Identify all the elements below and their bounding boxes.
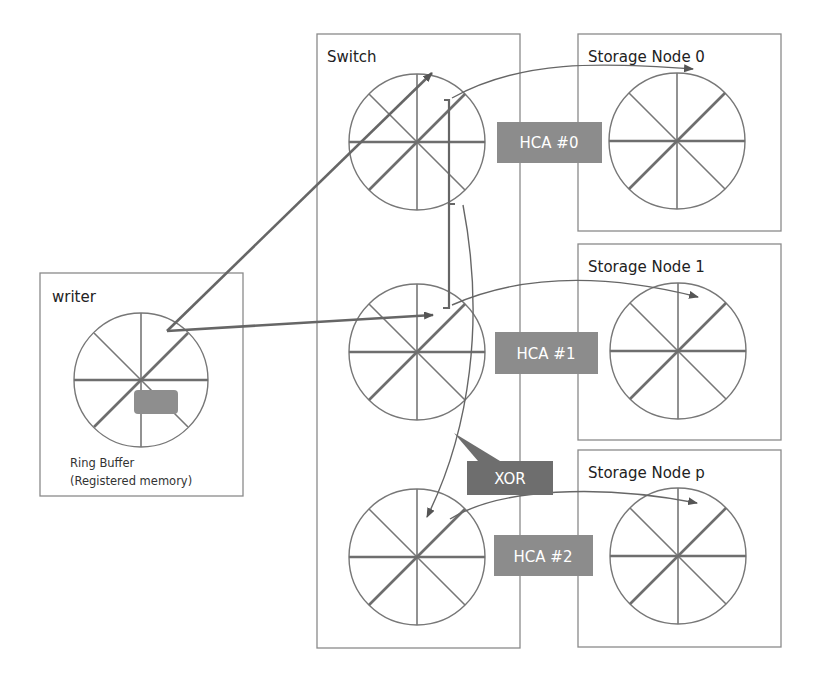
svg-text:XOR: XOR [494, 470, 526, 488]
switch-title: Switch [327, 48, 377, 66]
svg-text:HCA #1: HCA #1 [517, 345, 576, 363]
hca1-transfer-arrow [452, 280, 698, 305]
hca-2-tag: HCA #2 [494, 535, 593, 576]
hca-0-tag: HCA #0 [497, 122, 602, 163]
hca2-transfer-arrow [450, 491, 697, 519]
writer-to-switch-0-arrow [167, 73, 432, 331]
storage-node-0-wheel [609, 73, 745, 209]
writer-ring-buffer-wheel [74, 313, 208, 447]
storage-node-1-title: Storage Node 1 [588, 258, 705, 276]
storage-node-0-title: Storage Node 0 [588, 48, 705, 66]
raid-ring-buffer-diagram: writer Switch Storage Node 0 Storage Nod… [0, 0, 820, 680]
bracket-lower [443, 204, 449, 308]
storage-node-p-title: Storage Node p [588, 464, 705, 482]
switch-wheel-2 [349, 489, 485, 625]
storage-node-p-wheel [610, 488, 746, 624]
svg-text:HCA #0: HCA #0 [520, 134, 579, 152]
registered-memory-caption: (Registered memory) [70, 474, 192, 488]
xor-callout: XOR [454, 433, 553, 495]
writer-title: writer [52, 288, 97, 306]
ring-buffer-caption: Ring Buffer [70, 456, 135, 470]
bracket-upper [444, 100, 455, 204]
svg-text:HCA #2: HCA #2 [514, 548, 573, 566]
buffer-slot-block [134, 390, 178, 414]
storage-node-1-wheel [610, 283, 746, 419]
hca-1-tag: HCA #1 [495, 332, 598, 374]
switch-wheel-0 [349, 74, 485, 210]
hca0-transfer-arrow [452, 65, 693, 98]
